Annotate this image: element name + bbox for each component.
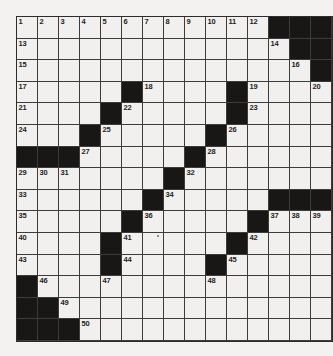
crossword-cell[interactable]	[185, 103, 206, 125]
crossword-cell[interactable]: 29	[17, 168, 38, 190]
crossword-cell[interactable]	[38, 60, 59, 82]
crossword-cell[interactable]	[164, 103, 185, 125]
crossword-cell[interactable]	[227, 211, 248, 233]
crossword-cell[interactable]: 16	[290, 60, 311, 82]
crossword-cell[interactable]	[185, 39, 206, 61]
crossword-cell[interactable]: 39	[311, 211, 332, 233]
crossword-cell[interactable]	[290, 276, 311, 298]
crossword-cell[interactable]	[143, 255, 164, 277]
crossword-cell[interactable]	[290, 82, 311, 104]
crossword-cell[interactable]	[248, 276, 269, 298]
crossword-cell[interactable]	[227, 60, 248, 82]
crossword-cell[interactable]	[206, 60, 227, 82]
crossword-cell[interactable]	[122, 276, 143, 298]
crossword-cell[interactable]	[206, 298, 227, 320]
crossword-cell[interactable]	[80, 255, 101, 277]
crossword-cell[interactable]	[38, 190, 59, 212]
crossword-cell[interactable]	[164, 60, 185, 82]
crossword-cell[interactable]	[269, 233, 290, 255]
crossword-cell[interactable]	[206, 39, 227, 61]
crossword-cell[interactable]	[80, 103, 101, 125]
crossword-cell[interactable]: 36	[143, 211, 164, 233]
crossword-cell[interactable]	[59, 255, 80, 277]
crossword-cell[interactable]	[59, 39, 80, 61]
crossword-cell[interactable]	[290, 319, 311, 341]
crossword-cell[interactable]	[227, 319, 248, 341]
crossword-cell[interactable]	[164, 233, 185, 255]
crossword-cell[interactable]	[80, 211, 101, 233]
crossword-cell[interactable]: 26	[227, 125, 248, 147]
crossword-cell[interactable]	[80, 60, 101, 82]
crossword-cell[interactable]: 21	[17, 103, 38, 125]
crossword-cell[interactable]	[248, 190, 269, 212]
crossword-cell[interactable]	[122, 125, 143, 147]
crossword-cell[interactable]	[164, 211, 185, 233]
crossword-cell[interactable]	[269, 168, 290, 190]
crossword-cell[interactable]: 27	[80, 147, 101, 169]
crossword-cell[interactable]	[206, 168, 227, 190]
crossword-cell[interactable]	[38, 233, 59, 255]
crossword-cell[interactable]	[80, 82, 101, 104]
crossword-cell[interactable]: 43	[17, 255, 38, 277]
crossword-cell[interactable]: 30	[38, 168, 59, 190]
crossword-cell[interactable]	[311, 168, 332, 190]
crossword-cell[interactable]	[290, 103, 311, 125]
crossword-cell[interactable]	[143, 39, 164, 61]
crossword-cell[interactable]	[290, 168, 311, 190]
crossword-cell[interactable]	[143, 319, 164, 341]
crossword-cell[interactable]	[80, 168, 101, 190]
crossword-cell[interactable]	[164, 125, 185, 147]
crossword-cell[interactable]	[290, 147, 311, 169]
crossword-cell[interactable]: 17	[17, 82, 38, 104]
crossword-cell[interactable]: 1	[17, 17, 38, 39]
crossword-cell[interactable]	[290, 233, 311, 255]
crossword-cell[interactable]: 8	[164, 17, 185, 39]
crossword-cell[interactable]	[143, 276, 164, 298]
crossword-cell[interactable]	[311, 233, 332, 255]
crossword-cell[interactable]: 4	[80, 17, 101, 39]
crossword-cell[interactable]	[143, 298, 164, 320]
crossword-cell[interactable]: 24	[17, 125, 38, 147]
crossword-cell[interactable]	[101, 211, 122, 233]
crossword-cell[interactable]	[143, 168, 164, 190]
crossword-cell[interactable]	[227, 298, 248, 320]
crossword-cell[interactable]	[185, 211, 206, 233]
crossword-cell[interactable]	[290, 255, 311, 277]
crossword-cell[interactable]	[227, 168, 248, 190]
crossword-cell[interactable]	[80, 39, 101, 61]
crossword-cell[interactable]	[59, 276, 80, 298]
crossword-cell[interactable]	[101, 82, 122, 104]
crossword-cell[interactable]	[101, 39, 122, 61]
crossword-cell[interactable]	[185, 319, 206, 341]
crossword-cell[interactable]	[206, 82, 227, 104]
crossword-cell[interactable]	[101, 147, 122, 169]
crossword-cell[interactable]	[311, 319, 332, 341]
crossword-cell[interactable]	[227, 147, 248, 169]
crossword-cell[interactable]	[164, 39, 185, 61]
crossword-cell[interactable]	[269, 82, 290, 104]
crossword-cell[interactable]	[311, 255, 332, 277]
crossword-cell[interactable]	[122, 147, 143, 169]
crossword-cell[interactable]	[185, 276, 206, 298]
crossword-cell[interactable]: 19	[248, 82, 269, 104]
crossword-cell[interactable]	[269, 276, 290, 298]
crossword-cell[interactable]	[101, 190, 122, 212]
crossword-cell[interactable]	[101, 298, 122, 320]
crossword-cell[interactable]	[206, 319, 227, 341]
crossword-cell[interactable]: 11	[227, 17, 248, 39]
crossword-cell[interactable]: 38	[290, 211, 311, 233]
crossword-cell[interactable]	[122, 298, 143, 320]
crossword-cell[interactable]	[59, 82, 80, 104]
crossword-cell[interactable]	[269, 103, 290, 125]
crossword-cell[interactable]	[248, 298, 269, 320]
crossword-cell[interactable]	[269, 60, 290, 82]
crossword-cell[interactable]	[185, 233, 206, 255]
crossword-cell[interactable]	[59, 233, 80, 255]
crossword-cell[interactable]	[143, 60, 164, 82]
crossword-cell[interactable]	[59, 103, 80, 125]
crossword-cell[interactable]	[59, 60, 80, 82]
crossword-cell[interactable]	[311, 298, 332, 320]
crossword-cell[interactable]: 3	[59, 17, 80, 39]
crossword-cell[interactable]	[248, 319, 269, 341]
crossword-cell[interactable]: 5	[101, 17, 122, 39]
